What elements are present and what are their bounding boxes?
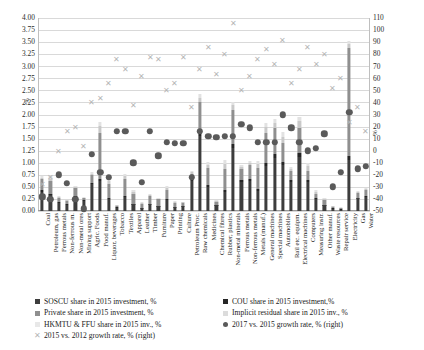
marker-growth-2015-2012: ✕ — [337, 75, 344, 82]
bar-segment-private — [198, 102, 201, 131]
bar-segment-private — [107, 184, 110, 198]
bar-stack — [265, 123, 268, 211]
category-label: Paper — [169, 213, 176, 228]
gridline — [38, 199, 370, 200]
right-axis-tick: 50 — [373, 87, 380, 94]
right-axis-tick: -30 — [373, 183, 383, 190]
bar-stack — [215, 200, 218, 211]
gridline — [38, 115, 370, 116]
category-label: Non-ferrous metals — [252, 213, 259, 264]
bar-stack — [273, 119, 276, 211]
legend-item: Private share in 2015 investment, % — [34, 307, 224, 318]
marker-growth-2015-2012: ✕ — [55, 147, 62, 154]
bar-stack — [182, 202, 185, 211]
marker-growth-2015-2012: ✕ — [113, 56, 120, 63]
category-labels: CoalPetroleum, gasFerrous metalsNon-ferr… — [38, 213, 370, 293]
marker-growth-2015-2012: ✕ — [180, 53, 187, 60]
marker-growth-2015-2012: ✕ — [362, 128, 369, 135]
bar-stack — [231, 102, 234, 211]
bar-segment-private — [148, 196, 151, 204]
legend-swatch-icon — [35, 299, 40, 304]
chart-figure: ✕✕✕✕✕✕✕✕✕✕✕✕✕✕✕✕✕✕✕✕✕✕✕✕✕✕✕✕✕✕✕✕✕✕✕✕✕✕✕✕… — [0, 0, 424, 350]
left-axis-tick: 3.25 — [22, 50, 35, 57]
category-label: Furniture — [161, 213, 168, 238]
bar-segment-soscu — [356, 198, 359, 211]
marker-growth-2015-2012: ✕ — [205, 43, 212, 50]
right-axis-line — [369, 18, 370, 211]
legend-item: ✕2015 vs. 2012 growth rate, % (right) — [34, 330, 224, 341]
bar-segment-soscu — [148, 204, 151, 211]
category-label: Petroleum, gas — [53, 213, 60, 252]
marker-growth-2015-2012: ✕ — [329, 84, 336, 91]
category-label: Computers — [310, 213, 317, 242]
category-label: Food manuf. — [103, 213, 110, 247]
bar-segment-soscu — [331, 209, 334, 211]
category-label: Waste resources — [335, 213, 342, 256]
bar-segment-soscu — [306, 182, 309, 211]
legend-label: Implicit residual share in 2015 inv., % — [232, 308, 348, 317]
legend-item: Implicit residual share in 2015 inv., % — [222, 307, 422, 318]
bar-stack — [339, 207, 342, 211]
bar-segment-hkmtu — [298, 121, 301, 128]
bar-stack — [198, 94, 201, 211]
category-label: Non-ferrous m. — [69, 213, 76, 254]
bar-stack — [57, 196, 60, 211]
bar-segment-private — [306, 171, 309, 180]
bar-stack — [148, 194, 151, 211]
marker-growth-2015-2012: ✕ — [263, 46, 270, 53]
marker-growth-2015-2012: ✕ — [279, 36, 286, 43]
bar-stack — [173, 201, 176, 211]
marker-growth-2015-2012: ✕ — [105, 80, 112, 87]
bar-segment-private — [265, 133, 268, 163]
bar-stack — [157, 198, 160, 211]
legend-column-left: SOSCU share in 2015 investment, %Private… — [34, 296, 224, 342]
bar-stack — [356, 191, 359, 211]
left-axis-tick: 3.75 — [22, 26, 35, 33]
legend-item: 2017 vs. 2015 growth rate, % (right) — [222, 319, 422, 330]
left-axis-tick: 3.00 — [22, 63, 35, 70]
bar-stack — [132, 190, 135, 211]
bar-segment-soscu — [124, 197, 127, 211]
right-axis-tick: 60 — [373, 75, 380, 82]
category-label: Automobiles — [285, 213, 292, 247]
right-axis-tick: 70 — [373, 63, 380, 70]
marker-growth-2015-2012: ✕ — [64, 128, 71, 135]
legend-item: COU share in 2015 investment,% — [222, 296, 422, 307]
bar-segment-soscu — [298, 157, 301, 211]
bar-segment-private — [281, 143, 284, 161]
gridline — [38, 30, 370, 31]
gridline — [38, 139, 370, 140]
bar-segment-soscu — [223, 192, 226, 211]
right-axis-tick: 110 — [373, 14, 384, 21]
bar-stack — [281, 132, 284, 211]
category-label: Repair service — [343, 213, 350, 251]
legend-item: HKMTU & FFU share in 2015 inv., % — [34, 319, 224, 330]
bar-segment-soscu — [231, 148, 234, 211]
marker-growth-2015-2012: ✕ — [238, 87, 245, 94]
gridline — [38, 90, 370, 91]
left-axis-unit-label: % — [23, 98, 31, 104]
bar-segment-private — [256, 168, 259, 190]
bar-segment-soscu — [207, 187, 210, 211]
legend-label: COU share in 2015 investment,% — [232, 297, 334, 306]
bar-segment-soscu — [132, 204, 135, 211]
category-label: Measuring instr. — [318, 213, 325, 256]
chart-legend: SOSCU share in 2015 investment, %Private… — [34, 296, 422, 344]
marker-growth-2015-2012: ✕ — [221, 51, 228, 58]
bar-stack — [165, 186, 168, 211]
marker-growth-2015-2012: ✕ — [88, 99, 95, 106]
left-axis-tick: 0.25 — [22, 195, 35, 202]
right-axis-tick: -10 — [373, 159, 383, 166]
marker-growth-2015-2012: ✕ — [354, 104, 361, 111]
left-axis-tick: 1.50 — [22, 135, 35, 142]
right-axis-tick: 90 — [373, 38, 380, 45]
bar-segment-soscu — [190, 181, 193, 211]
marker-growth-2015-2012: ✕ — [163, 87, 170, 94]
bar-stack — [140, 202, 143, 211]
marker-growth-2015-2012: ✕ — [39, 181, 46, 188]
left-axis-tick: 1.00 — [22, 159, 35, 166]
bar-segment-soscu — [348, 160, 351, 211]
bar-stack — [364, 188, 367, 211]
left-axis-tick: 0.75 — [22, 171, 35, 178]
bar-segment-private — [207, 168, 210, 185]
